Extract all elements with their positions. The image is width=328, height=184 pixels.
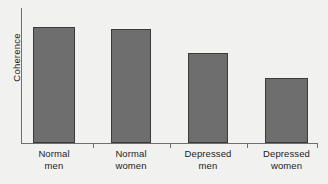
x-axis-label-line2: women <box>93 160 169 172</box>
bar-depressed-women <box>265 78 308 143</box>
x-axis-label-depressed-men: Depressed men <box>170 148 246 171</box>
bar-normal-men <box>33 27 75 143</box>
x-axis-label-normal-men: Normal men <box>16 148 92 171</box>
x-axis-label-normal-women: Normal women <box>93 148 169 171</box>
x-axis-label-line1: Depressed <box>170 148 246 160</box>
x-axis-label-line2: men <box>16 160 92 172</box>
x-axis-label-line1: Normal <box>16 148 92 160</box>
x-axis-label-line2: men <box>170 160 246 172</box>
x-axis-label-line1: Normal <box>93 148 169 160</box>
bar-normal-women <box>111 29 151 143</box>
x-axis-label-depressed-women: Depressed women <box>249 148 325 171</box>
x-axis-label-line2: women <box>249 160 325 172</box>
bar-depressed-men <box>188 53 228 143</box>
bar-chart: Coherence Normal men Normal women Depres… <box>0 0 328 184</box>
x-axis-label-line1: Depressed <box>249 148 325 160</box>
